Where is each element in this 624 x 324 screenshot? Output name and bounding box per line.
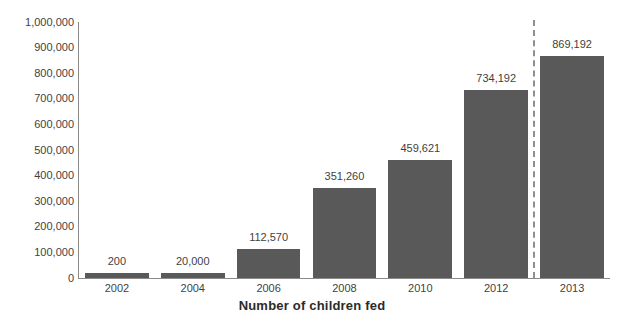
bar-slot: 200 (79, 22, 155, 278)
y-axis-tick-label: 100,000 (2, 247, 74, 258)
plot-area: 20020,000112,570351,260459,621734,192869… (79, 22, 610, 278)
y-axis-tick-label: 400,000 (2, 170, 74, 181)
y-axis-tick-label: 0 (2, 273, 74, 284)
bar-value-label: 200 (79, 256, 155, 267)
bar[interactable] (540, 56, 604, 279)
bar-value-label: 351,260 (307, 171, 383, 182)
bar-value-label: 734,192 (458, 73, 534, 84)
y-axis-tick-label: 200,000 (2, 221, 74, 232)
x-axis-tick-label: 2008 (307, 282, 383, 294)
x-axis-tick-label: 2004 (155, 282, 231, 294)
x-axis-tick-label: 2002 (79, 282, 155, 294)
bar-slot: 112,570 (231, 22, 307, 278)
y-axis-tick-label: 600,000 (2, 119, 74, 130)
y-axis-tick-label: 1,000,000 (2, 17, 74, 28)
y-axis-tick-label: 900,000 (2, 42, 74, 53)
bar-chart: 0100,000200,000300,000400,000500,000600,… (0, 0, 624, 324)
projection-separator-line (533, 20, 535, 278)
bar[interactable] (388, 160, 452, 278)
x-axis-tick-label: 2006 (231, 282, 307, 294)
y-axis-tick-label: 700,000 (2, 93, 74, 104)
bar-slot: 351,260 (307, 22, 383, 278)
bar-value-label: 20,000 (155, 256, 231, 267)
bar-value-label: 112,570 (231, 232, 307, 243)
bar-slot: 869,192 (534, 22, 610, 278)
bar-slot: 20,000 (155, 22, 231, 278)
bar-slot: 459,621 (382, 22, 458, 278)
y-axis-tick-label: 500,000 (2, 145, 74, 156)
x-axis-line (78, 278, 610, 279)
bar[interactable] (85, 273, 149, 278)
y-axis-tick-label: 800,000 (2, 68, 74, 79)
bar[interactable] (161, 273, 225, 278)
x-axis-tick-label: 2012 (458, 282, 534, 294)
bar[interactable] (237, 249, 301, 278)
x-axis-title: Number of children fed (0, 298, 624, 313)
y-axis-tick-labels: 0100,000200,000300,000400,000500,000600,… (0, 0, 74, 324)
bar[interactable] (464, 90, 528, 278)
bar-slot: 734,192 (458, 22, 534, 278)
bar-value-label: 869,192 (534, 39, 610, 50)
x-axis-tick-label: 2010 (382, 282, 458, 294)
bar[interactable] (313, 188, 377, 278)
x-axis-tick-label: 2013 (534, 282, 610, 294)
y-axis-tick-label: 300,000 (2, 196, 74, 207)
bar-value-label: 459,621 (382, 143, 458, 154)
